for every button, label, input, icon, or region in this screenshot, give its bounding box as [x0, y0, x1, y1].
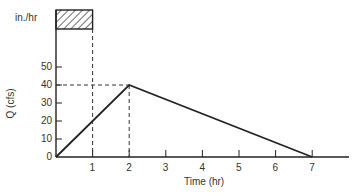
x-tick-label: 7: [309, 162, 315, 173]
chart-axes: [56, 10, 349, 157]
x-tick-label: 4: [199, 162, 205, 173]
hydrograph-line: [56, 85, 312, 157]
x-tick-label: 6: [273, 162, 279, 173]
y-tick-label: 0: [46, 151, 52, 162]
y-tick-label: 20: [41, 115, 52, 126]
hydrograph-series: [56, 85, 312, 157]
y-tick-label: 40: [41, 79, 52, 90]
y-tick-label: 10: [41, 133, 52, 144]
y-axis-label: Q (cfs): [5, 89, 16, 119]
x-tick-label: 3: [163, 162, 169, 173]
y-tick-label: 30: [41, 97, 52, 108]
rainfall-block: [56, 10, 93, 29]
x-tick-label: 2: [126, 162, 132, 173]
x-axis-label: Time (hr): [184, 176, 224, 187]
x-tick-label: 5: [236, 162, 242, 173]
reference-lines: [56, 29, 129, 157]
y-tick-label: 50: [41, 61, 52, 72]
x-tick-label: 1: [90, 162, 96, 173]
hyetograph-unit-label: in./hr: [15, 12, 37, 23]
hydrograph-chart: [0, 0, 361, 196]
rainfall-hyetograph: [56, 10, 93, 29]
